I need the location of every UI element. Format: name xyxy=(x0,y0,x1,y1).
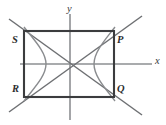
vertex-label-q: Q xyxy=(117,84,125,95)
vertex-label-r: R xyxy=(12,84,19,95)
vertex-label-s: S xyxy=(12,35,18,46)
x-axis-label: x xyxy=(155,56,160,67)
geometry-figure: S P R Q y x xyxy=(0,0,166,125)
y-axis-label: y xyxy=(67,4,72,15)
figure-canvas xyxy=(0,0,166,125)
vertex-label-p: P xyxy=(117,35,123,46)
